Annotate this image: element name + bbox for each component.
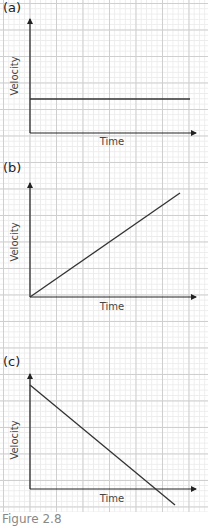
panel-b: (b) Time Velocity [3, 160, 196, 312]
figure-caption: Figure 2.8 [2, 512, 62, 526]
panel-c: (c) Time Velocity [3, 354, 196, 505]
panel-label: (c) [3, 354, 20, 369]
panel-label: (b) [3, 160, 21, 175]
x-axis-label: Time [99, 493, 124, 504]
velocity-line [30, 385, 175, 505]
x-axis-label: Time [99, 301, 124, 312]
y-axis-label: Velocity [9, 420, 20, 459]
y-axis-label: Velocity [9, 56, 20, 95]
velocity-line [30, 193, 180, 297]
y-axis-label: Velocity [9, 222, 20, 261]
figure: (a) Time Velocity (b) Time Velocity (c) … [0, 0, 208, 512]
x-axis-label: Time [99, 136, 124, 147]
panel-label: (a) [3, 0, 21, 15]
panel-a: (a) Time Velocity [3, 0, 196, 147]
